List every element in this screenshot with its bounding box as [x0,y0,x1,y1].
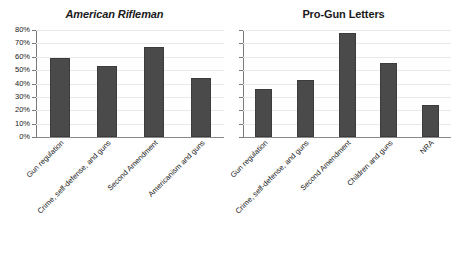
bar[interactable] [255,89,272,137]
x-tick-label: Americanism and guns [59,139,206,253]
chart-title-right: Pro-Gun Letters [229,8,458,20]
x-tick-label: Second Amendment [12,139,159,253]
bar[interactable] [339,33,356,137]
x-tick-label: NRA [289,139,436,253]
bar-slot [422,30,439,137]
bar[interactable] [191,78,211,137]
bar[interactable] [97,66,117,137]
chart-title-left: American Rifleman [0,8,229,20]
bar-slot [191,30,211,137]
y-tick-label-20: 20% [0,106,30,114]
axis-baseline [36,137,224,138]
y-tick-label-70: 70% [0,39,30,47]
chart-panel-pro-gun-letters: Pro-Gun Letters Gun regulationCrime, sel… [229,0,458,253]
bar[interactable] [380,63,397,137]
bar[interactable] [50,58,70,137]
plot-area-left [36,30,224,137]
bar[interactable] [297,80,314,138]
bar-slot [380,30,397,137]
bar[interactable] [422,105,439,137]
x-tick-label-group-right: Gun regulationCrime, self-defense, and g… [229,139,458,249]
plot-area-right [243,30,451,137]
bar-slot [144,30,164,137]
axis-baseline [243,137,451,138]
y-tick-label-80: 80% [0,26,30,34]
bar-group-left [36,30,224,137]
bar-slot [50,30,70,137]
bar-group-right [243,30,451,137]
bar[interactable] [144,47,164,137]
figure-canvas: American Rifleman 0%10%20%30%40%50%60%70… [0,0,458,253]
bar-slot [255,30,272,137]
y-tick-label-10: 10% [0,120,30,128]
y-tick-label-30: 30% [0,93,30,101]
bar-slot [339,30,356,137]
x-tick-label-group-left: Gun regulationCrime, self-defense, and g… [0,139,229,249]
bar-slot [297,30,314,137]
y-tick-label-40: 40% [0,80,30,88]
y-tick-label-50: 50% [0,66,30,74]
y-tick-label-60: 60% [0,53,30,61]
bar-slot [97,30,117,137]
